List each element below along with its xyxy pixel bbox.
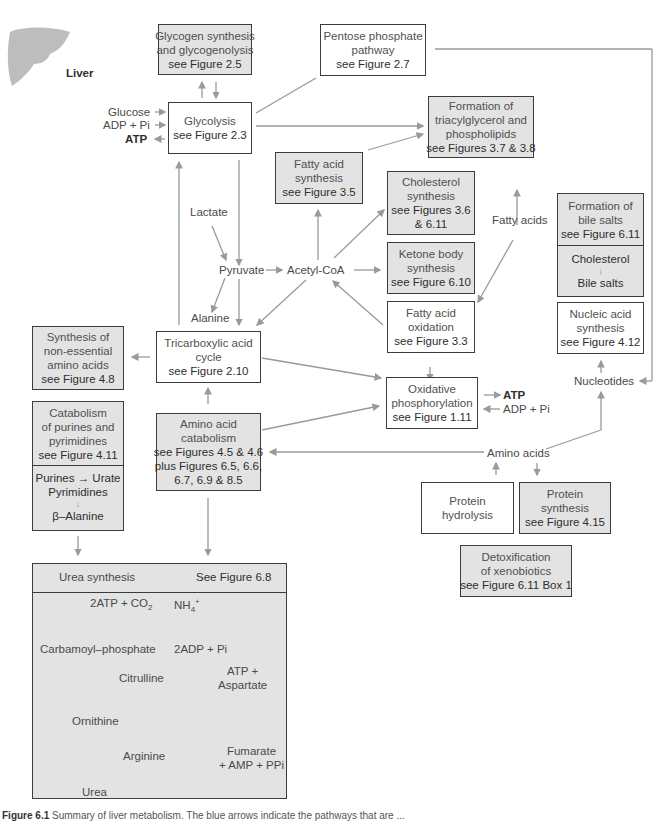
box-line: Fatty acid — [294, 157, 344, 171]
box-line: oxidation — [408, 320, 454, 334]
box-line: & 6.11 — [415, 217, 447, 231]
citrulline-label: Citrulline — [119, 672, 164, 684]
nh4-superscript: + — [195, 597, 200, 606]
box-line: amino acids — [47, 358, 108, 372]
nucleotides-label: Nucleotides — [574, 374, 634, 388]
box-line: Cholesterol — [402, 175, 460, 189]
box-line: Oxidative — [408, 382, 456, 396]
box-line: Pyrimidines — [35, 485, 120, 499]
divider — [33, 465, 123, 466]
box-line: non-essential — [44, 344, 112, 358]
box-line: see Figure 2.3 — [173, 128, 247, 142]
box-line: see Figures 3.6 — [391, 203, 470, 217]
tca-cycle-box: Tricarboxylic acid cycle see Figure 2.10 — [156, 331, 261, 383]
divider — [558, 245, 643, 246]
purine-catabolism-box: Catabolism of purines and pyrimidines se… — [32, 401, 124, 531]
box-line: see Figure 6.11 Box 1 — [460, 578, 572, 592]
box-line: Bile salts — [571, 276, 629, 290]
box-line: Protein — [547, 487, 583, 501]
box-line: plus Figures 6.5, 6.6, — [155, 459, 262, 473]
box-line: synthesis — [541, 501, 589, 515]
box-line: Purines → Urate — [35, 471, 120, 485]
box-line: see Figure 3.5 — [282, 185, 356, 199]
urea-title: Urea synthesis — [59, 571, 135, 583]
box-line: Cholesterol — [571, 252, 629, 266]
caption-figure-number: Figure 6.1 — [2, 810, 49, 821]
box-line: see Figure 6.11 — [561, 227, 640, 241]
box-line: synthesis — [407, 261, 455, 275]
detoxification-box: Detoxification of xenobiotics see Figure… — [460, 545, 572, 597]
liver-icon — [4, 24, 74, 94]
nonessential-amino-acids-box: Synthesis of non-essential amino acids s… — [32, 326, 124, 390]
box-line: and glycogenolysis — [156, 43, 253, 57]
atp-co2-label: 2ATP + CO2 — [90, 597, 153, 612]
box-line: of purines and — [38, 420, 117, 434]
carbamoyl-phosphate-label: Carbamoyl–phosphate — [40, 643, 156, 655]
nh-text: NH — [174, 599, 191, 611]
box-line: phospholipids — [446, 127, 516, 141]
box-line: Ketone body — [399, 247, 464, 261]
atp-co2-text: 2ATP + CO — [90, 597, 148, 609]
arginine-label: Arginine — [123, 750, 165, 762]
box-line: synthesis — [407, 189, 455, 203]
box-line: see Figure 4.15 — [525, 515, 605, 529]
box-line: Formation of — [561, 199, 640, 213]
glycolysis-box: Glycolysis see Figure 2.3 — [168, 102, 252, 154]
box-line: see Figure 2.5 — [168, 57, 242, 71]
box-line: triacylglycerol and — [435, 113, 527, 127]
protein-synthesis-box: Protein synthesis see Figure 4.15 — [519, 482, 611, 534]
nh4-subscript: 4 — [191, 605, 195, 614]
box-line: see Figure 1.11 — [392, 410, 471, 424]
protein-hydrolysis-box: Protein hydrolysis — [421, 482, 514, 534]
fumarate-label: Fumarate + AMP + PPi — [219, 744, 284, 772]
pyruvate-label: Pyruvate — [219, 263, 264, 277]
fatty-acid-synthesis-box: Fatty acid synthesis see Figure 3.5 — [275, 152, 363, 204]
adp-pi-input-label: ADP + Pi — [103, 118, 150, 132]
acetyl-coa-label: Acetyl-CoA — [287, 263, 345, 277]
urea-figure-ref: See Figure 6.8 — [196, 571, 271, 583]
box-line: Catabolism — [38, 406, 117, 420]
box-line: Formation of — [449, 99, 514, 113]
figure-caption: Figure 6.1 Summary of liver metabolism. … — [2, 810, 405, 821]
pentose-phosphate-box: Pentose phosphate pathway see Figure 2.7 — [320, 24, 426, 76]
box-line: β–Alanine — [35, 509, 120, 523]
bile-salts-box: Formation of bile salts see Figure 6.11 … — [557, 193, 644, 297]
lactate-label: Lactate — [190, 205, 228, 219]
box-line: Amino acid — [180, 417, 237, 431]
box-line: see Figure 4.8 — [41, 372, 115, 386]
box-line: synthesis — [577, 321, 625, 335]
cholesterol-synthesis-box: Cholesterol synthesis see Figures 3.6 & … — [387, 171, 475, 235]
box-line: see Figures 4.5 & 4.6 — [154, 445, 263, 459]
ammonium-label: NH4+ — [174, 597, 200, 614]
fatty-acids-label: Fatty acids — [492, 213, 548, 227]
box-line: bile salts — [561, 213, 640, 227]
caption-text: Summary of liver metabolism. The blue ar… — [52, 810, 405, 821]
box-line: see Figure 4.12 — [561, 335, 641, 349]
organ-label: Liver — [66, 66, 94, 80]
down-arrow-icon: ↓ — [571, 266, 629, 276]
amino-acids-label: Amino acids — [487, 446, 550, 460]
glycogen-box: Glycogen synthesis and glycogenolysis se… — [158, 24, 252, 75]
box-line: Synthesis of — [47, 330, 110, 344]
box-line: Detoxification — [481, 550, 550, 564]
adp-out-label: 2ADP + Pi — [174, 643, 227, 655]
box-line: see Figure 3.3 — [394, 334, 468, 348]
adp-pi-oxphos-label: ADP + Pi — [503, 402, 550, 416]
box-line: Fatty acid — [406, 306, 456, 320]
box-line: of xenobiotics — [481, 564, 551, 578]
ornithine-label: Ornithine — [72, 715, 119, 727]
box-line: Protein — [449, 494, 485, 508]
amp-ppi-text: + AMP + PPi — [219, 758, 284, 772]
box-line: see Figures 3.7 & 3.8 — [426, 141, 535, 155]
urea-product-label: Urea — [82, 786, 107, 798]
fumarate-text: Fumarate — [219, 744, 284, 758]
box-line: Tricarboxylic acid — [164, 336, 252, 350]
amino-acid-catabolism-box: Amino acid catabolism see Figures 4.5 & … — [156, 413, 261, 491]
box-line: cycle — [195, 350, 221, 364]
box-line: see Figure 2.10 — [169, 364, 249, 378]
box-line: synthesis — [295, 171, 343, 185]
fatty-acid-oxidation-box: Fatty acid oxidation see Figure 3.3 — [387, 301, 475, 353]
co2-subscript: 2 — [148, 603, 152, 612]
box-line: phosphorylation — [391, 396, 472, 410]
down-arrow-icon: ↓ — [35, 499, 120, 509]
